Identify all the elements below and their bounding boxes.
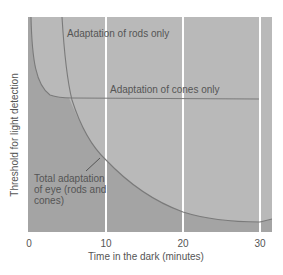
- x-tick-20: 20: [177, 238, 189, 249]
- x-tick-30: 30: [254, 238, 266, 249]
- cones-only-label: Adaptation of cones only: [110, 84, 220, 95]
- rods-only-label: Adaptation of rods only: [67, 28, 169, 39]
- total-adaptation-label-line3: cones): [34, 195, 64, 206]
- y-axis-label: Threshold for light detection: [9, 73, 20, 196]
- x-tick-0: 0: [26, 238, 32, 249]
- total-adaptation-label-line1: Total adaptation: [34, 173, 105, 184]
- x-tick-10: 10: [100, 238, 112, 249]
- dark-adaptation-chart: Adaptation of rods only Adaptation of co…: [0, 0, 283, 275]
- x-axis-label: Time in the dark (minutes): [88, 251, 204, 262]
- total-adaptation-label-line2: of eye (rods and: [34, 184, 106, 195]
